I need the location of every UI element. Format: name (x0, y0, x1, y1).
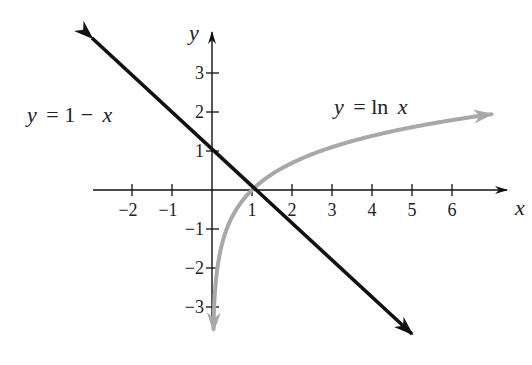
x-axis-label: x (514, 195, 525, 220)
line-label-eq: = 1 − (46, 102, 93, 127)
y-tick-label: 3 (195, 63, 204, 83)
axes: −2−1123456 −3−2−1123 (93, 32, 507, 325)
x-tick-label: 6 (448, 200, 457, 220)
x-tick-label: −2 (118, 200, 137, 220)
y-tick-label: 2 (195, 102, 204, 122)
x-tick-label: 2 (288, 200, 297, 220)
ln-curve-down-arrow (214, 307, 215, 331)
line-label-y: y (25, 102, 37, 127)
x-tick-label: −1 (158, 200, 177, 220)
ln-label: y = ln x (332, 94, 408, 119)
x-tick-label: 1 (248, 200, 257, 220)
svg-text:y = ln x: y = ln x (332, 94, 408, 119)
svg-text:y = 1 − x: y = 1 − x (25, 102, 113, 127)
line-one-minus-x (92, 38, 412, 334)
ln-label-eq: = ln (353, 94, 388, 119)
y-tick-label: −2 (185, 258, 204, 278)
ln-label-x: x (397, 94, 408, 119)
line-label-x: x (102, 102, 113, 127)
x-tick-label: 4 (368, 200, 377, 220)
ln-label-y: y (332, 94, 344, 119)
y-axis-label: y (187, 20, 199, 45)
y-tick-label: 1 (195, 141, 204, 161)
y-tick-label: −1 (185, 219, 204, 239)
x-tick-label: 3 (328, 200, 337, 220)
line-label: y = 1 − x (25, 102, 113, 127)
chart-plot: −2−1123456 −3−2−1123 x y y = 1 − x y = l… (0, 0, 532, 365)
y-tick-label: −3 (185, 297, 204, 317)
x-tick-label: 5 (408, 200, 417, 220)
